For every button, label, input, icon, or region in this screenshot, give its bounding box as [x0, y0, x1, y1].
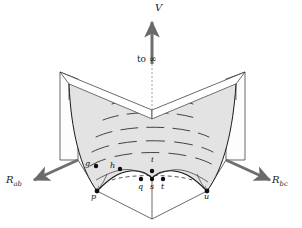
point-marker-i [150, 169, 154, 173]
point-marker-g [94, 164, 98, 168]
point-marker-q [139, 177, 143, 181]
potential-surface [69, 84, 236, 191]
rab-axis-label-sub: ab [14, 180, 22, 188]
potential-energy-surface-figure: V Rab Rbc to ∞ g h i q s t p u [0, 0, 302, 228]
point-label-s: s [150, 182, 154, 191]
rab-axis-label-main: R [6, 174, 14, 185]
infinity-annotation: to ∞ [137, 54, 156, 64]
point-marker-h [118, 167, 122, 171]
v-axis-label: V [155, 2, 162, 13]
point-label-t: t [161, 182, 164, 191]
point-label-p: p [91, 192, 96, 201]
figure-canvas [0, 0, 302, 228]
point-label-g: g [85, 159, 90, 168]
point-label-u: u [204, 192, 209, 201]
rbc-axis-label-sub: bc [280, 180, 288, 188]
v-axis-label-text: V [155, 2, 162, 13]
rbc-axis-label: Rbc [272, 174, 288, 188]
point-label-q: q [138, 182, 143, 191]
rbc-axis-shaft [226, 160, 270, 180]
rbc-axis-label-main: R [272, 174, 280, 185]
rab-axis-shaft [34, 160, 78, 180]
point-label-h: h [110, 161, 115, 170]
rab-axis-label: Rab [6, 174, 22, 188]
point-marker-s [150, 177, 154, 181]
point-label-i: i [151, 155, 154, 164]
point-marker-t [161, 177, 165, 181]
